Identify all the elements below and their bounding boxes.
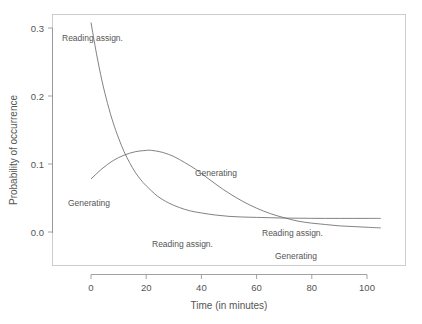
curve-label-5: Reading assign. xyxy=(262,228,323,238)
chart-figure: 0.3 0.2 0.1 0.0 0 20 40 60 80 100 Time (… xyxy=(0,0,422,324)
figure-background xyxy=(0,0,422,324)
x-tick-label-1: 20 xyxy=(141,282,152,293)
y-tick-label-2: 0.2 xyxy=(31,91,44,102)
y-tick-label-0: 0.0 xyxy=(31,227,44,238)
x-tick-label-0: 0 xyxy=(88,282,93,293)
curve-label-4: Reading assign. xyxy=(152,239,213,249)
curve-label-6: Generating xyxy=(275,251,317,261)
y-tick-label-3: 0.3 xyxy=(31,23,44,34)
x-tick-label-2: 40 xyxy=(196,282,207,293)
x-tick-label-4: 80 xyxy=(307,282,318,293)
x-axis-title: Time (in minutes) xyxy=(191,300,268,311)
chart-canvas: 0.3 0.2 0.1 0.0 0 20 40 60 80 100 Time (… xyxy=(0,0,422,324)
curve-label-3: Generating xyxy=(195,168,237,178)
y-tick-label-1: 0.1 xyxy=(31,159,44,170)
x-tick-label-5: 100 xyxy=(359,282,375,293)
y-axis-title: Probability of occurrence xyxy=(8,95,19,205)
curve-label-1: Reading assign. xyxy=(62,33,123,43)
x-tick-label-3: 60 xyxy=(251,282,262,293)
curve-label-2: Generating xyxy=(68,198,110,208)
